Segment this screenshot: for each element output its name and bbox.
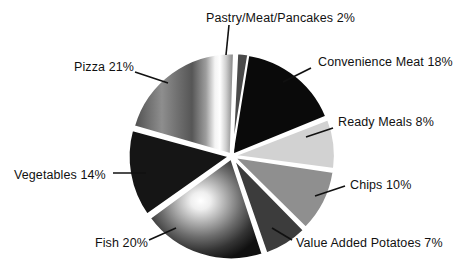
- pie-slice-group: [129, 53, 335, 259]
- pie-chart-canvas: [0, 0, 474, 273]
- pie-slice-label: Pizza 21%: [74, 61, 134, 74]
- leader-line: [135, 72, 168, 83]
- pie-slice-label: Value Added Potatoes 7%: [296, 237, 443, 250]
- pie-slice-label: Vegetables 14%: [14, 169, 106, 182]
- pie-slice-label: Pastry/Meat/Pancakes 2%: [206, 12, 355, 25]
- pie-slice-label: Convenience Meat 18%: [318, 56, 453, 69]
- pie-slice-label: Fish 20%: [95, 237, 148, 250]
- pie-chart: Convenience Meat 18%Ready Meals 8%Chips …: [0, 0, 474, 273]
- pie-slice-label: Ready Meals 8%: [338, 116, 434, 129]
- leader-line: [226, 25, 229, 55]
- pie-slice-label: Chips 10%: [350, 179, 411, 192]
